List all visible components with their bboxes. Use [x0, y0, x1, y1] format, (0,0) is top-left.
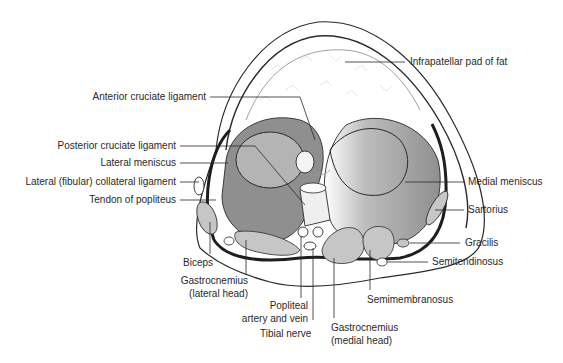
label-lateral-meniscus: Lateral meniscus — [40, 157, 176, 169]
label-lcl: Lateral (fibular) collateral ligament — [0, 176, 176, 188]
label-popliteal-line2: artery and vein — [220, 313, 308, 325]
label-gracilis: Gracilis — [465, 237, 498, 249]
label-semimembranosus: Semimembranosus — [367, 294, 453, 306]
acl-structure — [296, 151, 314, 173]
popliteal-artery — [298, 227, 308, 237]
label-medial-meniscus: Medial meniscus — [468, 176, 542, 188]
label-semitendinosus: Semitendinosus — [432, 256, 503, 268]
label-gastroc-lateral-line1: Gastrocnemius — [170, 275, 248, 287]
label-gastroc-medial-line2: (medial head) — [331, 335, 392, 347]
label-popliteus-tendon: Tendon of popliteus — [40, 194, 176, 206]
label-infrapatellar-pad: Infrapatellar pad of fat — [410, 56, 507, 68]
label-acl: Anterior cruciate ligament — [60, 91, 206, 103]
label-biceps: Biceps — [183, 257, 213, 269]
label-sartorius: Sartorius — [468, 204, 508, 216]
lateral-condyle — [236, 132, 304, 188]
semitendinosus-shape — [377, 258, 387, 266]
popliteal-vein — [313, 227, 323, 237]
label-pcl: Posterior cruciate ligament — [20, 140, 176, 152]
label-popliteal-line1: Popliteal — [230, 300, 308, 312]
gracilis-shape — [397, 239, 409, 247]
label-gastroc-lateral-line2: (lateral head) — [170, 288, 248, 300]
label-gastroc-medial-line1: Gastrocnemius — [331, 322, 398, 334]
label-tibial-nerve: Tibial nerve — [260, 328, 311, 340]
lcl-shape — [194, 177, 204, 195]
tibial-nerve-shape — [304, 242, 316, 250]
